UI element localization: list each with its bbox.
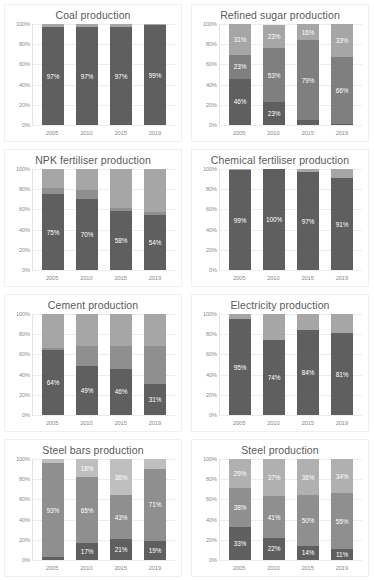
bars-group: 95%74%84%81% bbox=[220, 314, 362, 415]
stacked-bar[interactable]: 33%38%29% bbox=[229, 459, 251, 560]
bar-segment: 29% bbox=[229, 459, 251, 488]
y-axis-tick-label: 0% bbox=[22, 557, 30, 563]
bar-segment-label: 66% bbox=[336, 87, 349, 94]
stacked-bar[interactable]: 84% bbox=[297, 314, 319, 415]
y-axis-tick-label: 0% bbox=[209, 267, 217, 273]
bar-segment-label: 49% bbox=[81, 387, 94, 394]
plot-area: 100%80%60%40%20%0%64%49%46%31%2005201020… bbox=[5, 313, 181, 429]
stacked-bar[interactable]: 97% bbox=[42, 24, 64, 125]
y-axis-tick-label: 100% bbox=[203, 456, 217, 462]
stacked-bar[interactable]: 91% bbox=[331, 169, 353, 270]
stacked-bar[interactable]: 97% bbox=[76, 24, 98, 125]
bar-segment-label: 99% bbox=[234, 217, 247, 224]
bars-group: 64%49%46%31% bbox=[33, 314, 175, 415]
bars-group: 93%17%65%18%21%43%36%19%71% bbox=[33, 459, 175, 560]
bar-segment bbox=[76, 24, 98, 27]
bar-segment-label: 55% bbox=[336, 518, 349, 525]
stacked-bar[interactable]: 97% bbox=[297, 169, 319, 270]
y-axis-tick-label: 60% bbox=[206, 61, 217, 67]
bar-segment-label: 17% bbox=[81, 548, 94, 555]
stacked-bar[interactable]: 19%71% bbox=[144, 459, 166, 560]
bar-segment: 54% bbox=[144, 215, 166, 270]
bar-segment bbox=[110, 314, 132, 346]
bar-segment: 55% bbox=[331, 493, 353, 549]
x-axis: 2005201020152019 bbox=[32, 560, 175, 574]
y-axis-tick-label: 60% bbox=[206, 351, 217, 357]
x-axis-tick-label: 2005 bbox=[228, 130, 250, 136]
stacked-bar[interactable]: 54% bbox=[144, 169, 166, 270]
stacked-bar[interactable]: 49% bbox=[76, 314, 98, 415]
bar-segment bbox=[331, 169, 353, 178]
stacked-bar[interactable]: 31% bbox=[144, 314, 166, 415]
stacked-bar[interactable]: 99% bbox=[229, 169, 251, 270]
stacked-bar[interactable]: 66%33% bbox=[331, 24, 353, 125]
bars-region: 75%70%58%54% bbox=[32, 169, 175, 270]
stacked-bar[interactable]: 58% bbox=[110, 169, 132, 270]
stacked-bar[interactable]: 79%16% bbox=[297, 24, 319, 125]
bar-segment bbox=[297, 120, 319, 125]
y-axis-tick-label: 80% bbox=[206, 186, 217, 192]
chart-panel: Electricity production100%80%60%40%20%0%… bbox=[187, 290, 374, 435]
stacked-bar[interactable]: 100% bbox=[263, 169, 285, 270]
stacked-bar[interactable]: 46%23%31% bbox=[229, 24, 251, 125]
bar-segment: 91% bbox=[331, 178, 353, 270]
chart-panel: NPK fertiliser production100%80%60%40%20… bbox=[0, 145, 187, 290]
bar-segment: 11% bbox=[331, 549, 353, 560]
stacked-bar[interactable]: 21%43%36% bbox=[110, 459, 132, 560]
bar-segment: 33% bbox=[229, 527, 251, 560]
bar-segment: 17% bbox=[76, 543, 98, 560]
stacked-bar[interactable]: 81% bbox=[331, 314, 353, 415]
x-axis-tick-label: 2019 bbox=[331, 420, 353, 426]
y-axis: 100%80%60%40%20%0% bbox=[194, 169, 219, 284]
plot-body: 75%70%58%54%2005201020152019 bbox=[32, 169, 175, 284]
y-axis-tick-label: 20% bbox=[19, 102, 30, 108]
y-axis: 100%80%60%40%20%0% bbox=[7, 314, 32, 429]
stacked-bar[interactable]: 46% bbox=[110, 314, 132, 415]
stacked-bar[interactable]: 74% bbox=[263, 314, 285, 415]
y-axis-tick-label: 60% bbox=[206, 206, 217, 212]
bar-segment: 46% bbox=[229, 79, 251, 125]
x-axis-tick-label: 2019 bbox=[144, 565, 166, 571]
bar-segment: 49% bbox=[76, 366, 98, 415]
stacked-bar[interactable]: 97% bbox=[110, 24, 132, 125]
stacked-bar[interactable]: 95% bbox=[229, 314, 251, 415]
y-axis-tick-label: 0% bbox=[209, 412, 217, 418]
x-axis-tick-label: 2019 bbox=[144, 275, 166, 281]
bar-segment-label: 37% bbox=[268, 474, 281, 481]
bar-segment bbox=[42, 24, 64, 27]
stacked-bar[interactable]: 75% bbox=[42, 169, 64, 270]
stacked-bar[interactable]: 14%50%36% bbox=[297, 459, 319, 560]
stacked-bar[interactable]: 70% bbox=[76, 169, 98, 270]
chart-panel-inner: Cement production100%80%60%40%20%0%64%49… bbox=[4, 294, 182, 432]
x-axis-tick-label: 2015 bbox=[297, 565, 319, 571]
x-axis-tick-label: 2005 bbox=[41, 275, 63, 281]
bars-region: 99%100%97%91% bbox=[219, 169, 362, 270]
x-axis-tick-label: 2005 bbox=[41, 130, 63, 136]
stacked-bar[interactable]: 22%41%37% bbox=[263, 459, 285, 560]
plot-area: 100%80%60%40%20%0%33%38%29%22%41%37%14%5… bbox=[192, 458, 368, 574]
y-axis-tick-label: 60% bbox=[19, 206, 30, 212]
bar-segment-label: 97% bbox=[302, 218, 315, 225]
stacked-bar[interactable]: 93% bbox=[42, 459, 64, 560]
stacked-bar[interactable]: 23%53%23% bbox=[263, 24, 285, 125]
plot-body: 46%23%31%23%53%23%79%16%66%33%2005201020… bbox=[219, 24, 362, 139]
stacked-bar[interactable]: 99% bbox=[144, 24, 166, 125]
bars-group: 33%38%29%22%41%37%14%50%36%11%55%34% bbox=[220, 459, 362, 560]
bar-segment-label: 81% bbox=[336, 371, 349, 378]
stacked-bar[interactable]: 17%65%18% bbox=[76, 459, 98, 560]
bar-segment: 58% bbox=[110, 211, 132, 270]
bar-segment: 23% bbox=[263, 102, 285, 125]
bar-segment: 43% bbox=[110, 495, 132, 538]
bar-segment-label: 18% bbox=[81, 465, 94, 472]
bar-segment-label: 70% bbox=[81, 231, 94, 238]
y-axis-tick-label: 100% bbox=[203, 166, 217, 172]
bar-segment bbox=[229, 314, 251, 319]
bar-segment-label: 16% bbox=[302, 29, 315, 36]
stacked-bar[interactable]: 64% bbox=[42, 314, 64, 415]
x-axis-tick-label: 2005 bbox=[41, 420, 63, 426]
bar-segment bbox=[76, 169, 98, 190]
x-axis: 2005201020152019 bbox=[219, 415, 362, 429]
bars-group: 97%97%97%99% bbox=[33, 24, 175, 125]
stacked-bar[interactable]: 11%55%34% bbox=[331, 459, 353, 560]
y-axis: 100%80%60%40%20%0% bbox=[194, 314, 219, 429]
